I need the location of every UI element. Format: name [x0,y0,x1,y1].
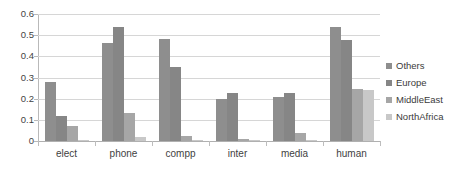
legend-label: Others [396,61,425,71]
y-axis-tick-label: 0.3 [4,73,34,83]
x-axis-tick-mark [209,141,210,146]
bar [363,90,374,141]
x-axis-category-label: human [323,147,380,163]
legend-swatch-icon [386,80,392,86]
y-axis-tick-mark [34,35,38,36]
x-axis-tick-mark [38,141,39,146]
bar [113,27,124,141]
bar [330,27,341,141]
x-axis-category-label: media [266,147,323,163]
legend-swatch-icon [386,114,392,120]
x-axis-category-label: inter [209,147,266,163]
legend-swatch-icon [386,97,392,103]
bar-group [266,14,323,141]
bar [102,43,113,141]
bar [124,113,135,141]
y-axis-tick-mark [34,78,38,79]
bar-group [152,14,209,141]
bar [295,133,306,141]
legend-item[interactable]: Others [386,57,457,74]
bar [273,97,284,141]
x-axis-category-label: elect [38,147,95,163]
plot-area [38,14,380,141]
bar-group [323,14,380,141]
x-axis-category-label: phone [95,147,152,163]
bar [306,140,317,141]
bar [56,116,67,141]
bar [78,140,89,141]
bar-chart: 0.60.50.40.30.20.10 electphonecomppinter… [0,0,457,171]
y-axis-tick-label: 0.4 [4,51,34,61]
bar [341,40,352,141]
bar-group [95,14,152,141]
legend-label: NorthAfrica [396,112,444,122]
y-axis-tick-label: 0 [4,136,34,146]
bar [181,136,192,141]
bar [45,82,56,141]
y-axis-tick-mark [34,99,38,100]
legend-item[interactable]: Europe [386,74,457,91]
bar [249,140,260,141]
x-axis-tick-mark [266,141,267,146]
y-axis-tick-label: 0.6 [4,9,34,19]
bar [135,137,146,141]
legend-item[interactable]: NorthAfrica [386,108,457,125]
y-axis-tick-label: 0.2 [4,94,34,104]
x-axis-category-labels: electphonecomppintermediahuman [38,147,380,163]
bar [67,126,78,141]
bar [227,93,238,141]
bar [192,140,203,141]
legend-swatch-icon [386,63,392,69]
bar [216,99,227,141]
bar-group [38,14,95,141]
y-axis-tick-label: 0.1 [4,115,34,125]
legend-label: MiddleEast [396,95,443,105]
bar [352,89,363,141]
y-axis-tick-labels: 0.60.50.40.30.20.10 [0,0,34,171]
y-axis-tick-mark [34,120,38,121]
y-axis-tick-label: 0.5 [4,30,34,40]
x-axis-tick-mark [95,141,96,146]
chart-legend: OthersEuropeMiddleEastNorthAfrica [386,57,457,125]
bar [284,93,295,141]
x-axis-tick-mark [323,141,324,146]
x-axis-category-label: compp [152,147,209,163]
y-axis-tick-mark [34,14,38,15]
x-axis-tick-mark [152,141,153,146]
bar [170,67,181,141]
y-axis-tick-mark [34,56,38,57]
bar [238,139,249,141]
x-axis-tick-mark [380,141,381,146]
bar-group [209,14,266,141]
bar-groups [38,14,380,141]
legend-label: Europe [396,78,427,88]
legend-item[interactable]: MiddleEast [386,91,457,108]
bar [159,39,170,141]
